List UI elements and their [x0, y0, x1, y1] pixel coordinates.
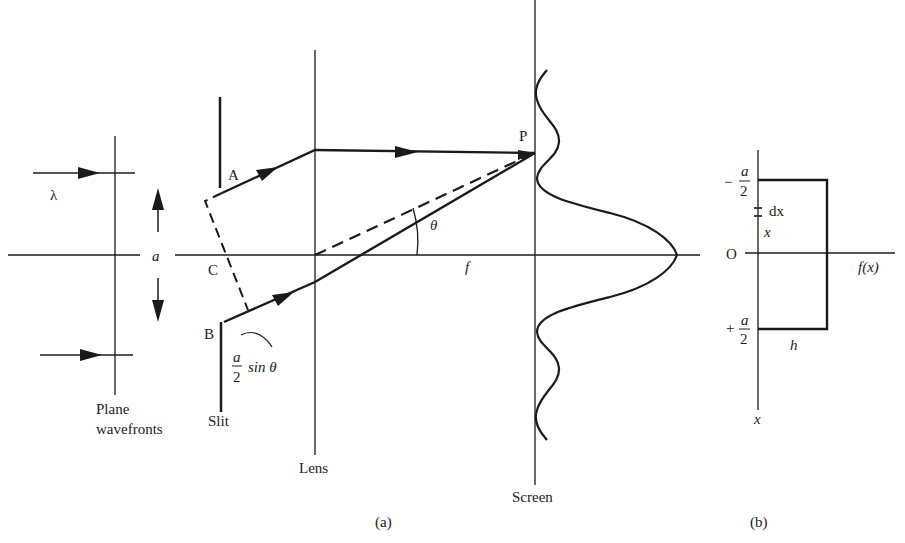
- panel-b: [745, 150, 895, 410]
- plus-sign: +: [726, 320, 734, 336]
- arrow-icon: [256, 167, 278, 181]
- ray-b: [224, 153, 535, 322]
- plane-wavefronts-label-line2: wavefronts: [96, 421, 163, 437]
- path-diff-denominator: 2: [233, 369, 241, 385]
- bottom-bound-numerator: a: [741, 312, 749, 328]
- point-c-label: C: [208, 262, 218, 278]
- plane-wavefronts-label-line1: Plane: [96, 401, 130, 417]
- single-slit-diffraction-figure: λ a A C B P θ f a 2 sin θ Plane wavefron…: [0, 0, 905, 543]
- arrow-icon: [395, 146, 418, 158]
- path-difference-brace: [241, 333, 272, 348]
- lens-label: Lens: [299, 460, 328, 476]
- panel-b-labels: − a 2 dx x O f(x) + a 2 h x (b): [724, 163, 879, 531]
- focal-length-label: f: [465, 259, 471, 275]
- point-p-label: P: [519, 128, 527, 144]
- origin-label: O: [726, 246, 737, 262]
- arrow-down-icon: [152, 300, 164, 322]
- perpendicular-construction-line: [205, 193, 248, 310]
- wavelength-label: λ: [50, 187, 58, 203]
- central-ray-dashed: [315, 155, 530, 255]
- dx-label: dx: [769, 203, 785, 219]
- arrow-icon: [80, 349, 102, 361]
- panel-a-labels: λ a A C B P θ f a 2 sin θ Plane wavefron…: [50, 128, 553, 531]
- top-bound-denominator: 2: [740, 183, 748, 199]
- fx-axis-label: f(x): [858, 259, 879, 276]
- theta-arc: [413, 208, 418, 255]
- screen-label: Screen: [512, 489, 553, 505]
- minus-sign: −: [724, 174, 732, 190]
- theta-label: θ: [430, 217, 438, 233]
- x-axis-label: x: [753, 411, 761, 427]
- height-label: h: [790, 337, 798, 353]
- path-diff-sin-theta: sin θ: [248, 359, 277, 375]
- arrow-up-icon: [152, 188, 164, 210]
- point-a-label: A: [228, 167, 239, 183]
- x-position-label: x: [763, 224, 771, 240]
- top-bound-numerator: a: [741, 163, 749, 179]
- slit-label: Slit: [208, 413, 230, 429]
- arrow-icon: [272, 292, 294, 306]
- diagram-canvas: λ a A C B P θ f a 2 sin θ Plane wavefron…: [0, 0, 905, 543]
- slit-width-label: a: [152, 248, 160, 264]
- arrow-icon: [78, 167, 100, 179]
- path-diff-numerator: a: [233, 349, 241, 365]
- bottom-bound-denominator: 2: [740, 331, 748, 347]
- panel-b-caption: (b): [750, 514, 768, 531]
- point-b-label: B: [204, 326, 214, 342]
- panel-a-caption: (a): [375, 514, 392, 531]
